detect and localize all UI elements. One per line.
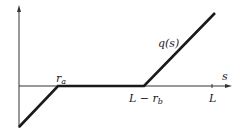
label-L-minus-r-b: L − rb	[129, 93, 163, 106]
label-r-a: ra	[56, 73, 66, 86]
plot-canvas	[0, 0, 240, 138]
x-axis-arrow-icon	[225, 84, 232, 88]
q-function-curve	[19, 13, 215, 127]
y-axis-arrow-icon	[17, 5, 21, 12]
label-s-axis: s	[222, 71, 228, 82]
label-q-of-s: q(s)	[158, 38, 179, 49]
label-L: L	[209, 93, 216, 104]
